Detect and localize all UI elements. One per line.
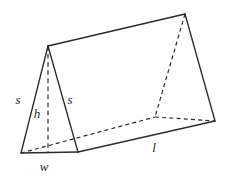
label-slant-right: s xyxy=(67,93,72,106)
label-width: w xyxy=(40,160,49,173)
label-height: h xyxy=(34,107,41,120)
prism-drawing xyxy=(0,0,229,178)
label-length: l xyxy=(152,141,156,154)
label-slant-left: s xyxy=(15,93,20,106)
triangular-prism-figure: s s h w l xyxy=(0,0,229,178)
top-face xyxy=(48,14,215,152)
